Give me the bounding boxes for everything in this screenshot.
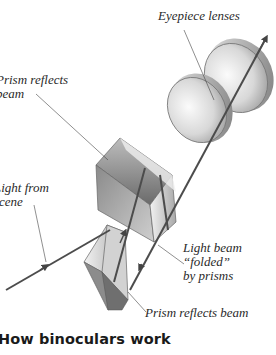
diagram-title: How binoculars work (0, 331, 171, 347)
label-prism-reflects-beam-bottom: Prism reflects beam (145, 305, 249, 320)
binoculars-diagram: Eyepiece lenses Prism reflects beam Ligh… (0, 0, 276, 355)
label-light-beam-folded-line1: Light beam (183, 240, 242, 255)
label-prism-reflects-beam-top-line2: beam (0, 86, 24, 101)
diagram-artwork (0, 0, 276, 355)
label-eyepiece-lenses: Eyepiece lenses (158, 8, 240, 23)
label-light-from-scene-line2: scene (0, 194, 23, 209)
label-light-beam-folded-line3: by prisms (183, 268, 233, 283)
label-prism-reflects-beam-top-line1: Prism reflects (0, 72, 68, 87)
lower-prism (84, 225, 128, 310)
label-light-from-scene-line1: Light from (0, 180, 49, 195)
label-light-beam-folded-line2: “folded” (183, 254, 230, 269)
